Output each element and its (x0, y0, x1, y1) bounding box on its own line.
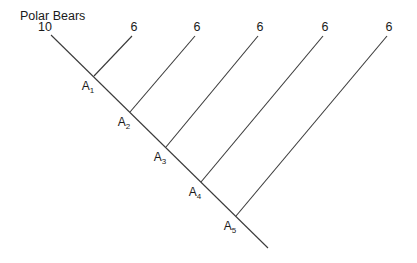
branch-line (201, 36, 323, 182)
branch-value-label: 6 (131, 20, 138, 34)
branch-line (130, 36, 195, 112)
phylogenetic-tree-diagram: Polar Bears 10 6A16A26A36A46A5 (0, 0, 417, 263)
branch-4: 6A4 (189, 20, 329, 201)
node-label: A3 (154, 150, 167, 166)
branch-3: 6A3 (154, 20, 264, 166)
branch-line (236, 36, 387, 216)
branch-value-label: 6 (194, 20, 201, 34)
branch-value-label: 6 (386, 20, 393, 34)
branch-5: 6A5 (224, 20, 393, 235)
branch-value-label: 6 (257, 20, 264, 34)
title-label: Polar Bears (20, 9, 85, 23)
branch-line (94, 36, 132, 76)
node-label: A1 (82, 79, 95, 95)
node-label: A2 (118, 115, 131, 131)
branches-group: 6A16A26A36A46A5 (82, 20, 393, 235)
root-value-label: 10 (38, 20, 52, 34)
node-label: A5 (224, 219, 237, 235)
branch-value-label: 6 (322, 20, 329, 34)
node-label: A4 (189, 185, 202, 201)
branch-1: 6A1 (82, 20, 138, 95)
branch-2: 6A2 (118, 20, 201, 131)
